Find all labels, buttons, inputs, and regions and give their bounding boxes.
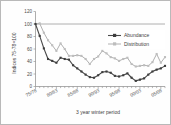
data-point xyxy=(105,70,107,72)
data-point xyxy=(139,65,141,67)
data-point xyxy=(160,62,162,64)
data-point xyxy=(76,67,78,69)
data-point xyxy=(151,70,153,72)
data-point xyxy=(105,52,107,54)
data-point xyxy=(60,57,62,59)
x-tick-label: 05/08 xyxy=(150,88,163,98)
data-point xyxy=(164,56,166,58)
data-point xyxy=(110,56,112,58)
data-point xyxy=(110,72,112,74)
data-point xyxy=(34,23,36,25)
y-axis-title: Indices 75-78=100 xyxy=(11,32,17,74)
data-point xyxy=(72,55,74,57)
data-point xyxy=(118,60,120,62)
data-point xyxy=(151,61,153,63)
data-point xyxy=(122,74,124,76)
x-tick-label: 95/98 xyxy=(109,88,122,98)
data-point xyxy=(135,80,137,82)
x-axis-title: 3 year winter period xyxy=(76,109,120,115)
data-point xyxy=(43,32,45,34)
data-point xyxy=(143,64,145,66)
data-point xyxy=(85,58,87,60)
data-point xyxy=(160,67,162,69)
data-point xyxy=(101,71,103,73)
data-point xyxy=(39,22,41,24)
data-point xyxy=(51,44,53,46)
y-tick-label: 40 xyxy=(27,59,33,64)
data-point xyxy=(131,63,133,65)
data-point xyxy=(126,57,128,59)
data-point xyxy=(147,74,149,76)
data-point xyxy=(68,55,70,57)
data-point xyxy=(93,58,95,60)
x-tick-label: 00/03 xyxy=(129,88,142,98)
legend-label-distribution: Distribution xyxy=(124,41,149,47)
data-point xyxy=(64,48,66,50)
data-point xyxy=(85,74,87,76)
data-point xyxy=(47,39,49,41)
data-point xyxy=(72,64,74,66)
y-tick-label: 20 xyxy=(27,72,33,77)
data-point xyxy=(76,54,78,56)
data-point xyxy=(64,58,66,60)
line-chart: 020406080100120 75/7880/8385/8890/9395/9… xyxy=(1,1,171,125)
legend-marker-distribution xyxy=(113,42,116,45)
data-point xyxy=(97,55,99,57)
data-point xyxy=(43,47,45,49)
data-point xyxy=(55,62,57,64)
data-point xyxy=(101,50,103,52)
data-point xyxy=(89,76,91,78)
data-point xyxy=(55,50,57,52)
data-point xyxy=(93,77,95,79)
data-point xyxy=(51,60,53,62)
data-point xyxy=(131,77,133,79)
data-point xyxy=(80,70,82,72)
legend-label-abundance: Abundance xyxy=(124,32,150,38)
data-point xyxy=(156,53,158,55)
data-point xyxy=(47,58,49,60)
data-point xyxy=(164,65,166,67)
y-tick-label: 80 xyxy=(27,34,33,39)
x-tick-label: 85/88 xyxy=(67,88,80,98)
data-point xyxy=(118,75,120,77)
x-tick-label: 80/83 xyxy=(46,88,59,98)
data-point xyxy=(89,63,91,65)
y-axis-tick-labels: 020406080100120 xyxy=(24,9,32,89)
data-point xyxy=(80,55,82,57)
chart-figure: 020406080100120 75/7880/8385/8890/9395/9… xyxy=(0,0,171,125)
chart-legend[interactable]: Abundance Distribution xyxy=(105,30,165,49)
data-point xyxy=(114,57,116,59)
legend-marker-abundance xyxy=(113,34,116,37)
data-point xyxy=(39,35,41,37)
data-point xyxy=(68,59,70,61)
y-tick-label: 0 xyxy=(29,84,32,89)
x-axis-tick-labels: 75/7880/8385/8890/9395/9800/0305/08 xyxy=(25,88,163,98)
y-tick-label: 60 xyxy=(27,47,33,52)
y-tick-label: 120 xyxy=(24,9,32,14)
data-point xyxy=(126,72,128,74)
data-point xyxy=(139,79,141,81)
data-point xyxy=(60,42,62,44)
data-point xyxy=(156,69,158,71)
data-point xyxy=(147,65,149,67)
y-tick-label: 100 xyxy=(24,22,32,27)
x-tick-label: 75/78 xyxy=(25,88,38,98)
data-point xyxy=(122,58,124,60)
data-point xyxy=(114,75,116,77)
data-point xyxy=(97,74,99,76)
data-point xyxy=(143,77,145,79)
data-point xyxy=(135,65,137,67)
x-tick-label: 90/93 xyxy=(88,88,101,98)
